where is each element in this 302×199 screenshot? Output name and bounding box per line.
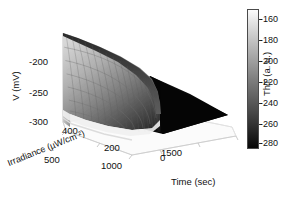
z-axis-tick-label: 400 <box>62 126 78 136</box>
x-axis-tick-label: 1000 <box>101 161 122 171</box>
colorbar-tick-label: -280 <box>260 138 278 148</box>
colorbar: -160 -180 -200 -220 -240 -260 -280 <box>247 9 259 149</box>
colorbar-tick-label: -180 <box>260 35 278 45</box>
colorbar-tick-label: -160 <box>260 14 278 24</box>
colorbar-label: ThT (a. u.) <box>261 52 272 96</box>
y-axis-tick-label: -250 <box>29 88 48 98</box>
y-axis-tick-label: -200 <box>29 57 48 67</box>
z-axis-tick-label: 200 <box>104 143 120 153</box>
surface-mesh <box>63 33 161 136</box>
y-axis-tick-label: -300 <box>29 117 48 127</box>
x-axis-label: Time (sec) <box>171 176 216 187</box>
x-axis-tick-label: 1500 <box>161 148 182 158</box>
colorbar-gradient <box>247 9 259 149</box>
y-axis-label: V (mV) <box>10 71 21 101</box>
colorbar-tick-label: -260 <box>260 119 278 129</box>
colorbar-tick-label: -240 <box>260 98 278 108</box>
figure-canvas: V (mV) -200 -250 -300 Irradiance (µW/cm … <box>0 0 302 199</box>
x-axis-tick-label: 500 <box>44 155 60 165</box>
